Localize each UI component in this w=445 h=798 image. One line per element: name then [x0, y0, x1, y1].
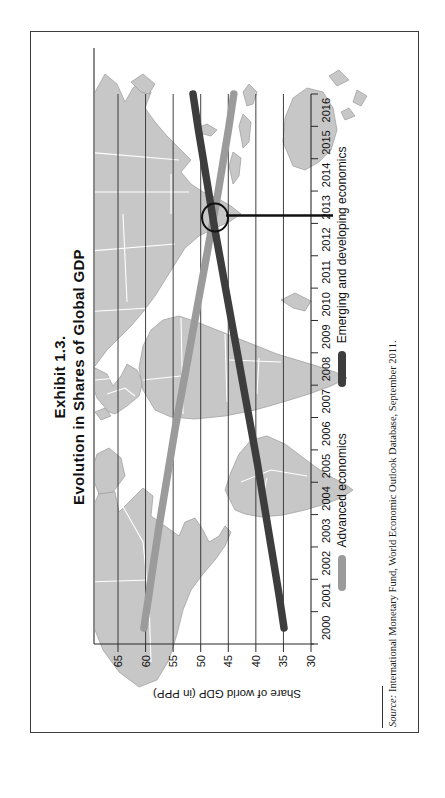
- y-axis-title: Share of world GDP (in PPP): [153, 688, 301, 700]
- x-tick-label: 2009: [320, 324, 332, 348]
- exhibit-number: Exhibit 1.3.: [51, 67, 70, 687]
- legend-label-advanced: Advanced economics: [335, 433, 349, 547]
- legend-swatch-emerging: [338, 351, 346, 387]
- x-tick-label: 2012: [320, 227, 332, 251]
- y-tick-label: 45: [222, 655, 234, 667]
- x-tick-label: 2007: [320, 389, 332, 413]
- y-tick-label: 55: [167, 655, 179, 667]
- x-tick-label: 2004: [320, 486, 332, 510]
- x-tick-label: 2000: [320, 616, 332, 640]
- x-tick-label: 2002: [320, 551, 332, 575]
- rotated-figure: 3035404550556065200020012002200320042005…: [31, 32, 418, 732]
- legend-item-advanced: Advanced economics: [335, 433, 349, 591]
- page: 3035404550556065200020012002200320042005…: [0, 0, 445, 798]
- x-tick-label: 2003: [320, 519, 332, 543]
- source-note: Source: International Monetary Fund, Wor…: [387, 87, 398, 727]
- figure-title: Exhibit 1.3. Evolution in Shares of Glob…: [51, 67, 89, 687]
- source-text: International Monetary Fund, World Econo…: [387, 340, 398, 692]
- chart-legend: Advanced economics Emerging and developi…: [335, 94, 349, 644]
- x-tick-label: 2008: [320, 357, 332, 381]
- x-tick-label: 2015: [320, 130, 332, 154]
- x-tick-label: 2011: [320, 260, 332, 284]
- legend-label-emerging: Emerging and developing economics: [335, 147, 349, 344]
- x-tick-label: 2016: [320, 98, 332, 122]
- source-label: Source:: [387, 695, 398, 727]
- figure-frame: 3035404550556065200020012002200320042005…: [30, 31, 419, 733]
- legend-item-emerging: Emerging and developing economics: [335, 147, 349, 388]
- x-tick-label: 2005: [320, 454, 332, 478]
- figure-title-text: Evolution in Shares of Global GDP: [70, 67, 89, 687]
- footnote-rule: [382, 686, 383, 728]
- x-tick-label: 2010: [320, 292, 332, 316]
- x-tick-label: 2006: [320, 421, 332, 445]
- y-tick-label: 35: [277, 655, 289, 667]
- legend-swatch-advanced: [338, 555, 346, 591]
- chart-canvas: 3035404550556065200020012002200320042005…: [31, 32, 418, 732]
- x-tick-label: 2001: [320, 583, 332, 607]
- y-tick-label: 40: [250, 655, 262, 667]
- y-tick-label: 60: [140, 655, 152, 667]
- y-tick-label: 65: [112, 655, 124, 667]
- x-tick-label: 2014: [320, 163, 332, 187]
- y-tick-label: 50: [195, 655, 207, 667]
- y-tick-label: 30: [305, 655, 317, 667]
